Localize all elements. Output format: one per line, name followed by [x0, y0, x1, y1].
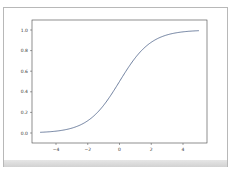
- y-tick-label: 1.0: [21, 28, 28, 33]
- y-axis: 0.00.20.40.60.81.0: [21, 28, 32, 136]
- y-tick-label: 0.0: [21, 131, 28, 136]
- sigmoid-chart: −4−2024 0.00.20.40.60.81.0: [0, 0, 231, 173]
- y-tick-label: 0.8: [21, 48, 28, 53]
- x-tick-label: 0: [118, 147, 121, 152]
- x-tick-label: −4: [53, 147, 60, 152]
- x-tick-label: −2: [84, 147, 91, 152]
- x-tick-label: 4: [182, 147, 185, 152]
- y-tick-label: 0.4: [21, 89, 28, 94]
- x-axis: −4−2024: [53, 143, 185, 152]
- x-tick-label: 2: [150, 147, 153, 152]
- y-tick-label: 0.6: [21, 69, 28, 74]
- y-tick-label: 0.2: [21, 110, 28, 115]
